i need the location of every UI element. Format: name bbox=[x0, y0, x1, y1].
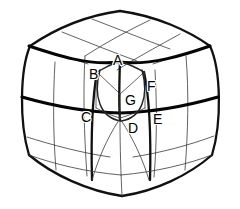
vertex-label-c: C bbox=[81, 110, 91, 124]
vertex-label-d: D bbox=[128, 121, 138, 135]
vertex-label-f: F bbox=[147, 79, 156, 93]
diagram-canvas: A B C D E F G bbox=[0, 0, 240, 209]
vertex-label-a: A bbox=[113, 53, 122, 67]
rounded-cube-wireframe bbox=[0, 0, 240, 209]
vertex-label-b: B bbox=[89, 67, 98, 81]
major-structural-edges bbox=[22, 46, 218, 196]
vertex-label-e: E bbox=[153, 112, 162, 126]
vertex-label-g: G bbox=[125, 93, 136, 107]
